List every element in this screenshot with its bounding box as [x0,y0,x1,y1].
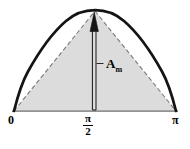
axis-label-pi-over-two: π 2 [83,113,93,137]
axis-label-origin: 0 [8,114,14,126]
amplitude-symbol: A [106,56,115,71]
fraction-denominator: 2 [83,126,93,138]
fraction-pi-over-two: π 2 [83,113,93,137]
amplitude-subscript: m [115,65,122,74]
sine-arch-figure: Am 0 π π 2 [0,0,190,149]
amplitude-label: Am [106,57,122,74]
fraction-numerator: π [83,113,93,125]
figure-canvas [0,0,190,149]
axis-label-pi: π [172,114,179,126]
